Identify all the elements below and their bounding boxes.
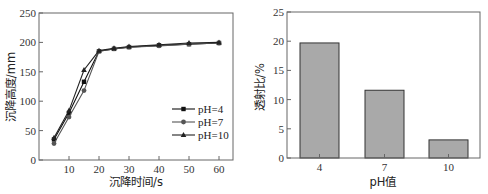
legend-label: pH=4 <box>198 103 224 115</box>
bars <box>300 43 468 158</box>
bar-ph-7 <box>365 90 404 158</box>
legend-item: pH=10 <box>172 129 229 141</box>
y-tick-label: 100 <box>20 95 37 107</box>
y-tick-label: 15 <box>273 64 285 76</box>
x-tick-label: 4 <box>317 161 323 173</box>
figure: 050100150200250 102030405060 pH=4pH=7pH=… <box>0 0 488 194</box>
x-axis-ticks: 102030405060 <box>64 156 226 175</box>
y-tick-label: 0 <box>31 154 37 166</box>
y-axis-label: 透射比/% <box>253 63 267 111</box>
legend: pH=4pH=7pH=10 <box>172 103 229 141</box>
x-axis-label: pH值 <box>370 175 398 189</box>
line-chart-settling-height: 050100150200250 102030405060 pH=4pH=7pH=… <box>4 7 233 189</box>
x-tick-label: 30 <box>124 163 136 175</box>
bar-ph-4 <box>300 43 339 158</box>
x-tick-label: 40 <box>154 163 166 175</box>
x-tick-label: 50 <box>184 163 196 175</box>
series-ph-7 <box>52 41 222 146</box>
bar-chart-transmittance: 0510152025 4710 透射比/% pH值 <box>253 6 480 189</box>
y-tick-label: 50 <box>25 125 37 137</box>
y-tick-label: 10 <box>273 94 285 106</box>
y-tick-label: 250 <box>20 7 37 19</box>
line-series <box>51 39 222 146</box>
series-ph-4 <box>52 41 221 142</box>
x-tick-label: 7 <box>382 161 388 173</box>
x-tick-label: 20 <box>94 163 106 175</box>
y-axis-ticks: 0510152025 <box>273 6 291 164</box>
legend-label: pH=7 <box>198 116 224 128</box>
y-tick-label: 5 <box>279 123 285 135</box>
x-tick-label: 10 <box>64 163 76 175</box>
legend-item: pH=7 <box>172 116 224 128</box>
y-axis-label: 沉降高度/mm <box>4 52 18 122</box>
y-tick-label: 20 <box>273 35 285 47</box>
x-tick-label: 60 <box>214 163 226 175</box>
y-tick-label: 150 <box>20 66 37 78</box>
legend-label: pH=10 <box>198 129 229 141</box>
y-tick-label: 0 <box>279 152 285 164</box>
series-ph-10 <box>51 39 222 139</box>
y-tick-label: 25 <box>273 6 285 18</box>
y-tick-label: 200 <box>20 36 37 48</box>
legend-item: pH=4 <box>172 103 224 115</box>
x-tick-label: 10 <box>443 161 455 173</box>
x-axis-label: 沉降时间/s <box>109 175 163 189</box>
